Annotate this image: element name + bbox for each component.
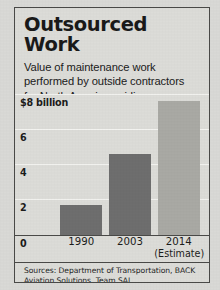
source-note: Sources: Department of Transportation, B… [24, 266, 204, 283]
x-tick-2014: 2014(Estimate) [154, 236, 203, 259]
x-tick-label: 1990 [68, 236, 94, 247]
newspaper-page: Outsourced Work Value of maintenance wor… [0, 0, 220, 290]
source-divider [15, 262, 210, 263]
x-tick-2003: 2003 [106, 236, 155, 248]
x-tick-1990: 1990 [57, 236, 106, 248]
chart-subtitle-line-2: performed by outside contractors [24, 74, 200, 88]
chart-subtitle-line-1: Value of maintenance work [24, 60, 200, 74]
x-tick-sublabel: (Estimate) [154, 248, 203, 259]
x-tick-label: 2003 [117, 236, 143, 247]
bar-1990 [60, 205, 102, 235]
bar-2014 [158, 101, 200, 235]
chart-title: Outsourced Work [24, 15, 200, 54]
infographic-panel: Outsourced Work Value of maintenance wor… [14, 7, 210, 283]
x-tick-label: 2014 [166, 236, 192, 247]
x-axis-tick-labels: 199020032014(Estimate) [15, 236, 210, 262]
bar-series [15, 94, 210, 236]
plot-area: 0246$8 billion [15, 94, 210, 236]
chart-header: Outsourced Work Value of maintenance wor… [15, 8, 209, 103]
bar-2003 [109, 154, 151, 235]
